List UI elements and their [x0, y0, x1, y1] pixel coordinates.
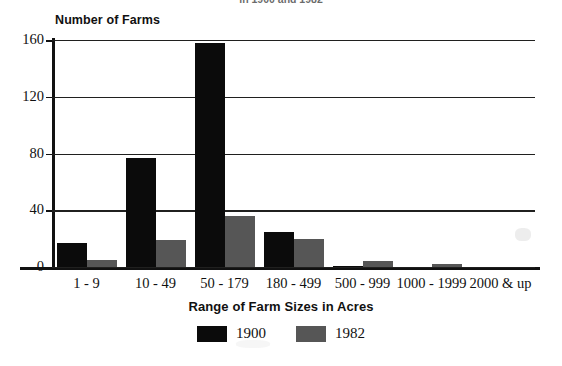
- legend-swatch-1900: [197, 326, 227, 342]
- x-tick-labels: 1 - 910 - 4950 - 179180 - 499500 - 99910…: [20, 275, 550, 295]
- y-tick-mark-0: [46, 267, 52, 269]
- bar-1982-180-499: [294, 239, 324, 267]
- x-tick-label-0: 1 - 9: [73, 275, 100, 292]
- x-tick-label-6: 2000 & up: [469, 275, 531, 292]
- bar-group: [52, 40, 535, 267]
- y-tick-label-160: 160: [0, 31, 44, 48]
- x-tick-label-2: 50 - 179: [200, 275, 248, 292]
- bar-1982-500-999: [363, 261, 393, 267]
- y-tick-label-40: 40: [0, 201, 44, 218]
- bar-1900-500-999: [333, 266, 363, 267]
- bar-1900-180-499: [264, 232, 294, 267]
- bar-1982-1000-1999: [432, 264, 462, 267]
- x-axis-title: Range of Farm Sizes in Acres: [0, 299, 562, 314]
- bar-1900-50-179: [195, 43, 225, 267]
- x-tick-label-4: 500 - 999: [335, 275, 391, 292]
- y-tick-label-80: 80: [0, 145, 44, 162]
- bar-1982-50-179: [225, 216, 255, 267]
- legend-item-1900: 1900: [197, 325, 266, 342]
- x-tick-label-5: 1000 - 1999: [396, 275, 466, 292]
- chart-title-clipped: in 1900 and 1982: [0, 0, 562, 7]
- chart-figure: in 1900 and 1982 Number of Farms 0408012…: [0, 0, 562, 366]
- legend-item-1982: 1982: [296, 325, 365, 342]
- bar-1982-1-9: [87, 260, 117, 267]
- legend-label-1982: 1982: [335, 325, 365, 342]
- bar-1900-10-49: [126, 158, 156, 267]
- bar-1900-1-9: [57, 243, 87, 267]
- gridline-0: [52, 267, 535, 268]
- legend-swatch-1982: [296, 326, 326, 342]
- chart-title: in 1900 and 1982: [0, 0, 562, 6]
- x-tick-label-1: 10 - 49: [135, 275, 176, 292]
- y-tick-label-120: 120: [0, 88, 44, 105]
- bar-1982-10-49: [156, 240, 186, 267]
- y-tick-label-0: 0: [0, 258, 44, 275]
- x-tick-label-3: 180 - 499: [266, 275, 322, 292]
- y-axis-title: Number of Farms: [55, 13, 160, 27]
- chart-legend: 19001982: [0, 325, 562, 342]
- plot-area: [52, 40, 535, 267]
- legend-label-1900: 1900: [236, 325, 266, 342]
